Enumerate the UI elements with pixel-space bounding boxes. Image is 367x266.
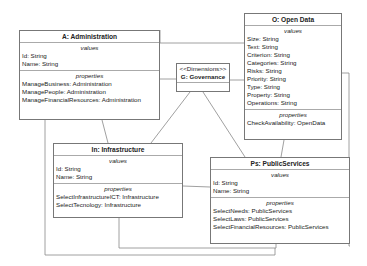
class-title: In: Infrastructure xyxy=(54,144,182,156)
properties-header: properties xyxy=(56,185,180,193)
values-header: values xyxy=(213,171,347,179)
edge-admin-infrastructure xyxy=(102,120,108,143)
class-administration[interactable]: A: Administration values Id: String Name… xyxy=(19,30,160,120)
value-item: Name: String xyxy=(56,173,180,181)
value-item: Id: String xyxy=(56,165,180,173)
class-title: Ps: PublicServices xyxy=(211,158,349,170)
value-item: Type: String xyxy=(247,83,339,91)
properties-header: properties xyxy=(22,72,157,80)
properties-header: properties xyxy=(247,111,339,119)
value-item: Id: String xyxy=(22,52,157,60)
value-item: Name: String xyxy=(213,187,347,195)
value-item: Size: String xyxy=(247,35,339,43)
value-item: Text: String xyxy=(247,43,339,51)
class-open-data[interactable]: O: Open Data values Size: String Text: S… xyxy=(244,13,342,140)
properties-section: properties SelectNeeds: PublicServices S… xyxy=(211,197,349,233)
property-item: SelectFinancialResources: PublicServices xyxy=(213,223,347,231)
property-item: SelectTecnology: Infrastructure xyxy=(56,201,180,209)
values-header: values xyxy=(56,157,180,165)
edge-opendata-publicservices xyxy=(281,140,284,157)
empty-section xyxy=(177,83,229,89)
class-infrastructure[interactable]: In: Infrastructure values Id: String Nam… xyxy=(53,143,183,218)
class-governance[interactable]: <<Dimensions>> G: Governance xyxy=(176,63,230,92)
property-item: ManagePeople: Administration xyxy=(22,88,157,96)
edge-infrastructure-publicservices xyxy=(183,186,210,187)
property-item: CheckAvailability: OpenData xyxy=(247,119,339,127)
values-header: values xyxy=(22,44,157,52)
class-title: G: Governance xyxy=(177,73,229,83)
properties-section: properties CheckAvailability: OpenData xyxy=(245,109,341,129)
values-section: values Size: String Text: String Criteri… xyxy=(245,26,341,109)
values-header: values xyxy=(247,27,339,35)
values-section: values Id: String Name: String xyxy=(211,170,349,197)
properties-section: properties ManageBusiness: Administratio… xyxy=(20,70,159,106)
property-item: SelectLaws: PublicServices xyxy=(213,215,347,223)
value-item: Operations: String xyxy=(247,99,339,107)
property-item: ManageBusiness: Administration xyxy=(22,80,157,88)
class-title: A: Administration xyxy=(20,31,159,43)
property-item: ManageFinancialResources: Administration xyxy=(22,96,157,104)
stereotype-label: <<Dimensions>> xyxy=(177,64,229,73)
edge-admin-opendata xyxy=(160,30,244,43)
value-item: Priority: String xyxy=(247,75,339,83)
properties-header: properties xyxy=(213,199,347,207)
value-item: Risks: String xyxy=(247,67,339,75)
properties-section: properties SelectInfrastructureICT: Infr… xyxy=(54,183,182,211)
class-public-services[interactable]: Ps: PublicServices values Id: String Nam… xyxy=(210,157,350,244)
value-item: Categories: String xyxy=(247,59,339,67)
value-item: Property: String xyxy=(247,91,339,99)
value-item: Name: String xyxy=(22,60,157,68)
values-section: values Id: String Name: String xyxy=(54,156,182,183)
property-item: SelectInfrastructureICT: Infrastructure xyxy=(56,193,180,201)
value-item: Id: String xyxy=(213,179,347,187)
edge-governance-publicservices xyxy=(203,92,245,157)
class-title: O: Open Data xyxy=(245,14,341,26)
values-section: values Id: String Name: String xyxy=(20,43,159,70)
property-item: SelectNeeds: PublicServices xyxy=(213,207,347,215)
value-item: Criterion: String xyxy=(247,51,339,59)
